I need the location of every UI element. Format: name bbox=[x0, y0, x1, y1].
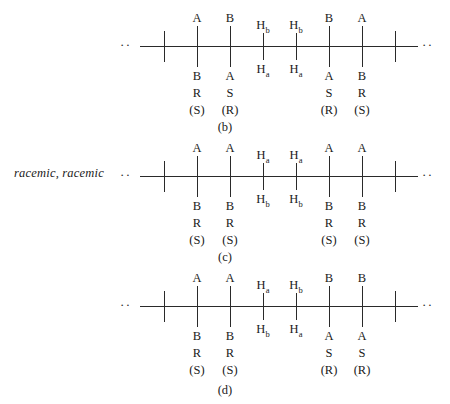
substituent-bond-tick bbox=[362, 286, 363, 327]
substituent-bond-tick bbox=[230, 156, 231, 197]
figure-c: racemic, racemic····ABR(S)ABR(S)HaHbHaHb… bbox=[0, 138, 450, 268]
substituent-symbol: H bbox=[257, 278, 266, 292]
cip-descriptor-label: S bbox=[342, 347, 382, 360]
top-substituent-label: A bbox=[342, 142, 382, 155]
substituent-subscript: b bbox=[265, 25, 269, 35]
bottom-substituent-label: B bbox=[342, 200, 382, 213]
substituent-subscript: a bbox=[266, 155, 270, 165]
substituent-subscript: b bbox=[265, 329, 269, 339]
top-substituent-label: B bbox=[342, 272, 382, 285]
substituent-subscript: a bbox=[266, 285, 270, 295]
parenthetical-descriptor-label: (S) bbox=[342, 234, 382, 247]
backbone-line bbox=[140, 46, 418, 47]
parenthetical-descriptor-label: (S) bbox=[210, 364, 250, 377]
substituent-symbol: H bbox=[257, 148, 266, 162]
cip-descriptor-label: R bbox=[342, 217, 382, 230]
chain-ellipsis-right: ·· bbox=[422, 38, 434, 51]
chain-ellipsis-right: ·· bbox=[422, 168, 434, 181]
substituent-bond-tick bbox=[263, 33, 264, 60]
backbone-line bbox=[140, 306, 418, 307]
chain-terminal-tick bbox=[164, 161, 165, 192]
figure-d: ····ABR(S)ABR(S)HaHbHbHaBAS(R)BAS(R)(d) bbox=[0, 268, 450, 398]
chain-terminal-tick bbox=[395, 291, 396, 322]
substituent-bond-tick bbox=[197, 156, 198, 197]
chain-terminal-tick bbox=[164, 291, 165, 322]
substituent-bond-tick bbox=[329, 26, 330, 67]
chain-ellipsis-left: ·· bbox=[120, 38, 132, 51]
top-substituent-label: A bbox=[342, 12, 382, 25]
substituent-bond-tick bbox=[197, 26, 198, 67]
polymer-chain-d: ····ABR(S)ABR(S)HaHbHbHaBAS(R)BAS(R) bbox=[128, 268, 428, 380]
substituent-subscript: b bbox=[298, 199, 302, 209]
figure-caption-c: (c) bbox=[0, 250, 450, 265]
substituent-subscript: b bbox=[298, 25, 302, 35]
chain-ellipsis-left: ·· bbox=[120, 168, 132, 181]
parenthetical-descriptor-label: (S) bbox=[210, 234, 250, 247]
backbone-line bbox=[140, 176, 418, 177]
bottom-substituent-label: B bbox=[342, 70, 382, 83]
polymer-chain-c: ····ABR(S)ABR(S)HaHbHaHbABR(S)ABR(S) bbox=[128, 138, 428, 250]
chain-ellipsis-right: ·· bbox=[422, 298, 434, 311]
cip-descriptor-label: R bbox=[210, 217, 250, 230]
substituent-symbol: H bbox=[257, 62, 266, 76]
substituent-bond-tick bbox=[329, 156, 330, 197]
cip-descriptor-label: S bbox=[210, 87, 250, 100]
racemic-racemic-annotation: racemic, racemic bbox=[14, 166, 104, 181]
substituent-subscript: b bbox=[265, 199, 269, 209]
parenthetical-descriptor-label: (R) bbox=[210, 104, 250, 117]
bottom-substituent-label: A bbox=[342, 330, 382, 343]
substituent-subscript: a bbox=[299, 155, 303, 165]
chain-terminal-tick bbox=[164, 31, 165, 62]
substituent-bond-tick bbox=[329, 286, 330, 327]
substituent-bond-tick bbox=[296, 163, 297, 190]
figure-caption-b: (b) bbox=[0, 120, 450, 135]
substituent-bond-tick bbox=[197, 286, 198, 327]
cip-descriptor-label: R bbox=[210, 347, 250, 360]
substituent-bond-tick bbox=[263, 163, 264, 190]
parenthetical-descriptor-label: (S) bbox=[342, 104, 382, 117]
substituent-symbol: H bbox=[290, 62, 299, 76]
substituent-subscript: a bbox=[299, 329, 303, 339]
substituent-subscript: b bbox=[298, 285, 302, 295]
cip-descriptor-label: R bbox=[342, 87, 382, 100]
parenthetical-descriptor-label: (R) bbox=[342, 364, 382, 377]
substituent-bond-tick bbox=[362, 156, 363, 197]
substituent-bond-tick bbox=[263, 293, 264, 320]
figure-b: ····ABR(S)BAS(R)HbHaHbHaBAS(R)ABR(S)(b) bbox=[0, 8, 450, 138]
chain-ellipsis-left: ·· bbox=[120, 298, 132, 311]
substituent-subscript: a bbox=[266, 69, 270, 79]
substituent-bond-tick bbox=[362, 26, 363, 67]
substituent-bond-tick bbox=[296, 33, 297, 60]
substituent-symbol: H bbox=[290, 322, 299, 336]
substituent-bond-tick bbox=[296, 293, 297, 320]
polymer-chain-b: ····ABR(S)BAS(R)HbHaHbHaBAS(R)ABR(S) bbox=[128, 8, 428, 120]
substituent-symbol: H bbox=[290, 148, 299, 162]
substituent-bond-tick bbox=[230, 286, 231, 327]
substituent-subscript: a bbox=[299, 69, 303, 79]
chain-terminal-tick bbox=[395, 161, 396, 192]
figure-caption-d: (d) bbox=[0, 383, 450, 398]
chain-terminal-tick bbox=[395, 31, 396, 62]
substituent-bond-tick bbox=[230, 26, 231, 67]
